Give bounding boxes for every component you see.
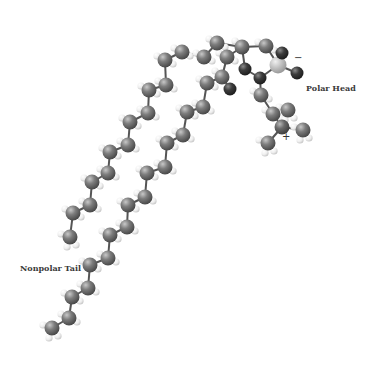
phospholipid-diagram: Polar Head Nonpolar Tail − +	[0, 0, 368, 371]
carbon-atom	[62, 311, 77, 326]
oxygen-atom	[254, 72, 267, 85]
carbon-atom	[121, 198, 136, 213]
carbon-atom	[120, 220, 135, 235]
carbon-atom	[220, 50, 235, 65]
oxygen-atom	[239, 63, 252, 76]
carbon-atom	[159, 78, 174, 93]
carbon-atom	[83, 258, 98, 273]
carbon-atom	[235, 40, 250, 55]
hydrogens-layer	[39, 35, 312, 341]
positive-charge-sign: +	[282, 131, 290, 142]
carbon-atom	[296, 123, 311, 138]
carbon-atom	[103, 145, 118, 160]
carbon-atom	[138, 190, 153, 205]
carbon-atom	[45, 321, 60, 336]
carbon-atom	[123, 115, 138, 130]
oxygen-atom	[224, 83, 237, 96]
atoms-layer	[45, 36, 311, 336]
nonpolar-tail-label: Nonpolar Tail	[20, 263, 81, 273]
carbon-atom	[103, 228, 118, 243]
carbon-atom	[65, 290, 80, 305]
carbon-atom	[176, 128, 191, 143]
carbon-atom	[142, 83, 157, 98]
carbon-atom	[101, 251, 116, 266]
carbon-atom	[158, 160, 173, 175]
carbon-atom	[261, 136, 276, 151]
carbon-atom	[175, 45, 190, 60]
oxygen-atom	[276, 47, 289, 60]
carbon-atom	[196, 100, 211, 115]
carbon-atom	[141, 106, 156, 121]
carbon-atom	[63, 230, 78, 245]
carbon-atom	[254, 88, 269, 103]
negative-charge-sign: −	[294, 52, 302, 63]
carbon-atom	[281, 103, 296, 118]
carbon-atom	[101, 166, 116, 181]
carbon-atom	[200, 76, 215, 91]
carbon-atom	[85, 175, 100, 190]
carbon-atom	[160, 136, 175, 151]
carbon-atom	[83, 198, 98, 213]
carbon-atom	[66, 206, 81, 221]
carbon-atom	[215, 70, 230, 85]
carbon-atom	[259, 39, 274, 54]
carbon-atom	[266, 107, 281, 122]
carbon-atom	[81, 281, 96, 296]
carbon-atom	[140, 166, 155, 181]
oxygen-atom	[291, 67, 304, 80]
carbon-atom	[158, 53, 173, 68]
polar-head-label: Polar Head	[306, 83, 356, 93]
carbon-atom	[210, 36, 225, 51]
carbon-atom	[121, 138, 136, 153]
carbon-atom	[197, 50, 212, 65]
carbon-atom	[180, 105, 195, 120]
molecule-model	[0, 0, 368, 371]
